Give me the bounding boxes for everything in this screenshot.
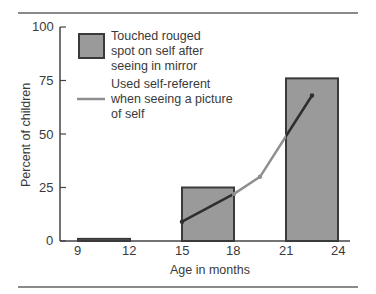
line-point [180,220,184,224]
legend-line-label: Used self-referent when seeing a picture… [111,77,233,122]
bar [286,78,338,241]
y-tick-50: 50 [39,127,53,142]
y-tick-100: 100 [32,19,54,34]
line-point [310,93,314,97]
line-point [258,175,262,179]
legend-bar-label: Touched rouged spot on self after seeing… [111,29,203,74]
y-tick-75: 75 [39,73,53,88]
x-axis-label: Age in months [170,263,250,277]
x-tick-21: 21 [279,243,293,258]
bar [182,188,234,242]
x-tick-24: 24 [331,243,345,258]
bar [78,239,130,241]
x-tick-18: 18 [226,243,240,258]
line-point [232,192,236,196]
y-tick-0: 0 [46,233,53,248]
x-tick-15: 15 [175,243,189,258]
y-tick-25: 25 [39,180,53,195]
x-tick-9: 9 [74,243,81,258]
y-axis-label: Percent of children [19,83,33,187]
legend-bar-swatch [79,34,104,58]
x-tick-12: 12 [122,243,136,258]
